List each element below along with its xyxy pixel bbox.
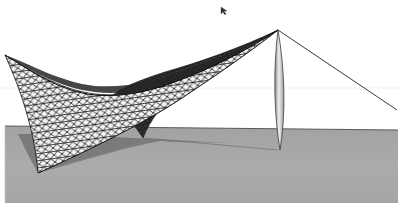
mouse-cursor [221,7,227,15]
back-stay-cable [278,30,397,110]
membrane-structure-render [0,0,403,209]
